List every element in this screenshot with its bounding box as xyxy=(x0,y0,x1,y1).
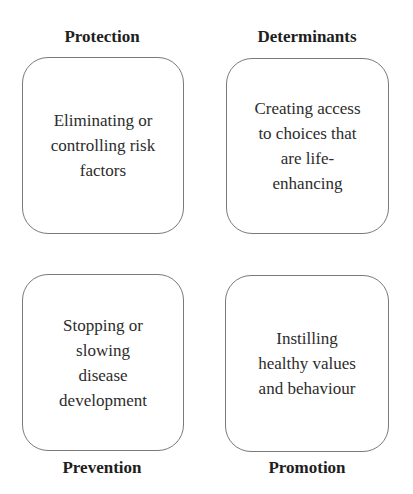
protection-box: Eliminating or controlling risk factors xyxy=(22,57,184,234)
protection-description: Eliminating or controlling risk factors xyxy=(51,108,155,183)
prevention-box: Stopping or slowing disease development xyxy=(22,274,184,451)
determinants-description: Creating access to choices that are life… xyxy=(254,96,360,196)
prevention-description: Stopping or slowing disease development xyxy=(59,313,147,413)
determinants-label: Determinants xyxy=(222,27,392,47)
protection-label: Protection xyxy=(17,27,187,47)
prevention-label: Prevention xyxy=(17,458,187,478)
promotion-label: Promotion xyxy=(222,458,392,478)
promotion-description: Instilling healthy values and behaviour xyxy=(258,326,356,401)
determinants-box: Creating access to choices that are life… xyxy=(226,58,389,234)
promotion-box: Instilling healthy values and behaviour xyxy=(225,275,389,452)
